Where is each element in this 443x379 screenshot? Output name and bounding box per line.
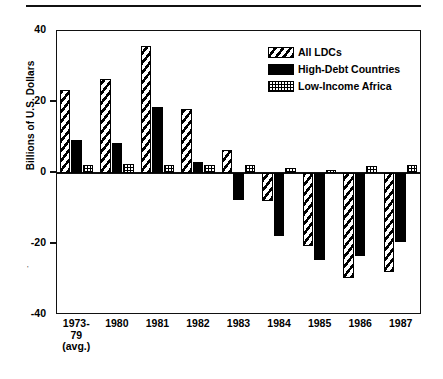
chart-legend: All LDCsHigh-Debt CountriesLow-Income Af… [268, 45, 418, 96]
bar-all-ldcs-4 [222, 150, 233, 173]
legend-item-all-ldcs: All LDCs [268, 45, 418, 60]
bar-all-ldcs-2 [141, 46, 152, 173]
y-axis-tick-label: -40 [14, 308, 46, 319]
bar-low-income-africa-8 [407, 165, 418, 173]
y-axis-tick-label: 40 [14, 24, 46, 35]
bar-high-debt-countries-0 [71, 140, 82, 173]
bar-low-income-africa-7 [366, 166, 377, 173]
bar-high-debt-countries-2 [152, 107, 163, 173]
bar-low-income-africa-1 [123, 164, 134, 173]
legend-item-low-income-africa: Low-Income Africa [268, 79, 418, 94]
legend-swatch-all-ldcs-icon [268, 47, 294, 58]
x-axis-labels: 1973- 79 (avg.)1980198119821983198419851… [56, 318, 421, 374]
bar-low-income-africa-6 [326, 170, 337, 173]
y-axis-tick-label: 0 [14, 166, 46, 177]
legend-label: All LDCs [298, 47, 342, 58]
bar-all-ldcs-8 [384, 173, 395, 272]
bar-all-ldcs-0 [60, 90, 71, 173]
bar-low-income-africa-2 [164, 165, 175, 173]
bar-high-debt-countries-3 [193, 162, 204, 173]
bar-all-ldcs-1 [100, 79, 111, 173]
bar-low-income-africa-3 [204, 165, 215, 173]
bar-high-debt-countries-7 [355, 173, 366, 256]
bar-all-ldcs-7 [343, 173, 354, 278]
legend-label: High-Debt Countries [298, 64, 400, 75]
bar-low-income-africa-5 [285, 168, 296, 173]
legend-swatch-high-debt-countries-icon [268, 64, 294, 75]
legend-label: Low-Income Africa [298, 81, 392, 92]
bar-all-ldcs-6 [303, 173, 314, 246]
bar-all-ldcs-5 [262, 173, 273, 201]
y-axis-tick-label: 20 [14, 95, 46, 106]
legend-item-high-debt-countries: High-Debt Countries [268, 62, 418, 77]
x-axis-label-8: 1987 [372, 318, 429, 330]
bar-high-debt-countries-4 [233, 173, 244, 200]
bar-low-income-africa-0 [83, 165, 94, 173]
legend-swatch-low-income-africa-icon [268, 81, 294, 92]
bar-high-debt-countries-5 [274, 173, 285, 236]
chart-figure: Billions of U.S. Dollars ' 40200-20-40 1… [0, 0, 443, 379]
bar-low-income-africa-4 [245, 165, 256, 173]
bar-all-ldcs-3 [181, 109, 192, 173]
bar-high-debt-countries-6 [314, 173, 325, 260]
y-axis-tick-label: -20 [14, 237, 46, 248]
bar-high-debt-countries-1 [112, 143, 123, 173]
bar-high-debt-countries-8 [395, 173, 406, 242]
